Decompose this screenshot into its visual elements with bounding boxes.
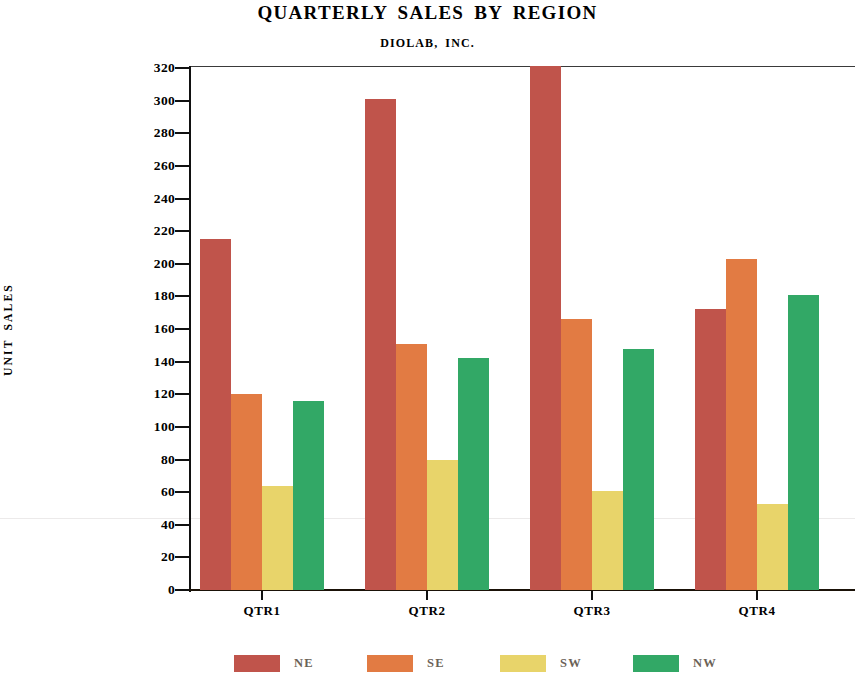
x-tick-qtr2 bbox=[426, 591, 428, 600]
y-tick-140 bbox=[175, 361, 189, 363]
y-tick-label-320: 320 bbox=[129, 60, 175, 76]
y-tick-label-300: 300 bbox=[129, 93, 175, 109]
legend-item-nw[interactable]: NW bbox=[633, 652, 717, 674]
y-tick-180 bbox=[175, 295, 189, 297]
y-tick-label-60: 60 bbox=[129, 484, 175, 500]
y-tick-220 bbox=[175, 230, 189, 232]
y-tick-320 bbox=[175, 67, 189, 69]
bar-qtr3-se[interactable] bbox=[561, 319, 592, 590]
legend-label-ne: NE bbox=[294, 656, 314, 671]
legend-swatch-nw bbox=[633, 655, 679, 672]
bar-qtr1-se[interactable] bbox=[231, 394, 262, 590]
bar-qtr1-ne[interactable] bbox=[200, 239, 231, 590]
y-tick-40 bbox=[175, 524, 189, 526]
y-tick-label-20: 20 bbox=[129, 549, 175, 565]
y-tick-260 bbox=[175, 165, 189, 167]
y-axis-title: UNIT SALES bbox=[2, 250, 26, 410]
x-tick-label-qtr2: QTR2 bbox=[367, 603, 487, 619]
bar-qtr3-ne[interactable] bbox=[530, 66, 561, 590]
chart-title: QUARTERLY SALES BY REGION bbox=[0, 2, 855, 24]
bar-qtr4-ne[interactable] bbox=[695, 309, 726, 590]
y-tick-280 bbox=[175, 132, 189, 134]
y-tick-label-200: 200 bbox=[129, 256, 175, 272]
y-tick-240 bbox=[175, 198, 189, 200]
y-tick-label-280: 280 bbox=[129, 125, 175, 141]
y-tick-label-260: 260 bbox=[129, 158, 175, 174]
y-tick-300 bbox=[175, 100, 189, 102]
x-tick-qtr3 bbox=[591, 591, 593, 600]
x-tick-label-qtr1: QTR1 bbox=[202, 603, 322, 619]
y-tick-160 bbox=[175, 328, 189, 330]
bar-qtr4-nw[interactable] bbox=[788, 295, 819, 590]
bar-qtr2-nw[interactable] bbox=[458, 358, 489, 590]
y-tick-label-0: 0 bbox=[129, 582, 175, 598]
legend-item-sw[interactable]: SW bbox=[500, 652, 582, 674]
bar-qtr1-sw[interactable] bbox=[262, 486, 293, 590]
y-tick-label-240: 240 bbox=[129, 191, 175, 207]
x-tick-qtr1 bbox=[261, 591, 263, 600]
legend-swatch-ne bbox=[234, 655, 280, 672]
y-tick-label-40: 40 bbox=[129, 517, 175, 533]
legend-swatch-sw bbox=[500, 655, 546, 672]
bar-qtr1-nw[interactable] bbox=[293, 401, 324, 590]
y-tick-0 bbox=[175, 589, 189, 591]
y-tick-label-100: 100 bbox=[129, 419, 175, 435]
legend-label-se: SE bbox=[427, 656, 445, 671]
bar-qtr2-sw[interactable] bbox=[427, 460, 458, 591]
y-tick-200 bbox=[175, 263, 189, 265]
bar-qtr3-sw[interactable] bbox=[592, 491, 623, 591]
bar-qtr4-sw[interactable] bbox=[757, 504, 788, 590]
y-tick-100 bbox=[175, 426, 189, 428]
y-tick-label-80: 80 bbox=[129, 452, 175, 468]
y-tick-60 bbox=[175, 491, 189, 493]
y-tick-label-140: 140 bbox=[129, 354, 175, 370]
y-tick-120 bbox=[175, 393, 189, 395]
bar-qtr3-nw[interactable] bbox=[623, 349, 654, 590]
bar-qtr4-se[interactable] bbox=[726, 259, 757, 590]
plot-top-border bbox=[189, 66, 855, 67]
bar-qtr2-se[interactable] bbox=[396, 344, 427, 590]
y-tick-80 bbox=[175, 459, 189, 461]
legend-label-sw: SW bbox=[560, 656, 582, 671]
legend-item-se[interactable]: SE bbox=[367, 652, 445, 674]
y-tick-label-180: 180 bbox=[129, 288, 175, 304]
plot-area bbox=[190, 68, 855, 590]
x-tick-label-qtr4: QTR4 bbox=[697, 603, 817, 619]
legend-item-ne[interactable]: NE bbox=[234, 652, 314, 674]
x-tick-qtr4 bbox=[756, 591, 758, 600]
y-tick-label-220: 220 bbox=[129, 223, 175, 239]
y-tick-20 bbox=[175, 556, 189, 558]
legend-swatch-se bbox=[367, 655, 413, 672]
legend-label-nw: NW bbox=[693, 656, 717, 671]
chart-legend: NESESWNW bbox=[0, 652, 855, 682]
y-tick-label-160: 160 bbox=[129, 321, 175, 337]
x-tick-label-qtr3: QTR3 bbox=[532, 603, 652, 619]
chart-subtitle: DIOLAB, INC. bbox=[0, 36, 855, 51]
bar-qtr2-ne[interactable] bbox=[365, 99, 396, 590]
y-tick-label-120: 120 bbox=[129, 386, 175, 402]
